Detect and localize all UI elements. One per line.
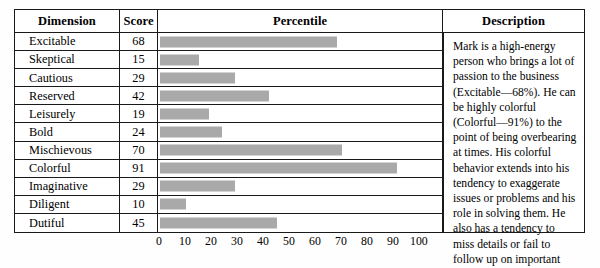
- bar-track: [158, 51, 442, 68]
- cell-score: 24: [120, 123, 158, 140]
- axis-tick-label: 20: [205, 236, 217, 248]
- axis-tick-label: 50: [283, 236, 295, 248]
- header-label-score: Score: [123, 15, 153, 28]
- bar-track: [158, 142, 442, 159]
- cell-percentile: [158, 214, 443, 232]
- score-value: 45: [132, 217, 144, 229]
- axis-tick-label: 80: [361, 236, 373, 248]
- score-value: 10: [132, 198, 144, 210]
- cell-dimension: Diligent: [15, 196, 120, 213]
- bar-track: [158, 160, 442, 177]
- percentile-bar: [160, 163, 397, 174]
- bar-track: [158, 123, 442, 140]
- bar-track: [158, 87, 442, 104]
- axis-tick-label: 100: [410, 236, 428, 248]
- cell-percentile: [158, 142, 443, 159]
- dimension-label: Leisurely: [15, 108, 75, 120]
- percentile-bar: [160, 108, 209, 119]
- axis-tick-label: 70: [335, 236, 347, 248]
- percentile-bar: [160, 127, 222, 138]
- bar-track: [158, 196, 442, 213]
- header-cell-dimension: Dimension: [15, 10, 120, 32]
- dimension-label: Mischievous: [15, 144, 92, 156]
- score-value: 68: [132, 35, 144, 47]
- hogan-hds-profile-table: Dimension Score Percentile Description E…: [0, 0, 600, 268]
- header-label-dimension: Dimension: [38, 15, 96, 28]
- dimension-label: Bold: [15, 126, 53, 138]
- percentile-bar: [160, 199, 186, 210]
- axis-tick-label: 10: [179, 236, 191, 248]
- axis-tick-label: 40: [257, 236, 269, 248]
- header-cell-score: Score: [120, 10, 158, 32]
- score-value: 24: [132, 126, 144, 138]
- percentile-bar: [160, 54, 199, 65]
- cell-score: 45: [120, 214, 158, 232]
- percentile-bar: [160, 145, 342, 156]
- header-cell-description: Description: [443, 10, 584, 32]
- cell-percentile: [158, 33, 443, 50]
- cell-percentile: [158, 196, 443, 213]
- score-value: 29: [132, 180, 144, 192]
- axis-tick-label: 0: [156, 236, 162, 248]
- cell-dimension: Skeptical: [15, 51, 120, 68]
- cell-dimension: Reserved: [15, 87, 120, 104]
- percentile-bar: [160, 217, 277, 228]
- percentile-bar: [160, 72, 235, 83]
- score-value: 19: [132, 108, 144, 120]
- cell-percentile: [158, 69, 443, 86]
- cell-dimension: Imaginative: [15, 178, 120, 195]
- score-value: 15: [132, 53, 144, 65]
- cell-dimension: Dutiful: [15, 214, 120, 232]
- dimension-label: Reserved: [15, 90, 75, 102]
- cell-dimension: Colorful: [15, 160, 120, 177]
- table-header-row: Dimension Score Percentile Description: [15, 10, 584, 33]
- cell-percentile: [158, 178, 443, 195]
- cell-score: 70: [120, 142, 158, 159]
- percentile-bar: [160, 181, 235, 192]
- dimension-label: Diligent: [15, 198, 69, 210]
- cell-dimension: Excitable: [15, 33, 120, 50]
- dimension-label: Excitable: [15, 35, 75, 47]
- cell-score: 29: [120, 69, 158, 86]
- header-label-percentile: Percentile: [273, 15, 327, 28]
- cell-score: 10: [120, 196, 158, 213]
- cell-percentile: [158, 87, 443, 104]
- bar-track: [158, 214, 442, 232]
- percentile-bar: [160, 90, 269, 101]
- bar-track: [158, 69, 442, 86]
- cell-score: 19: [120, 105, 158, 122]
- bar-track: [158, 178, 442, 195]
- score-value: 29: [132, 72, 144, 84]
- cell-percentile: [158, 123, 443, 140]
- header-cell-percentile: Percentile: [158, 10, 443, 32]
- axis-tick-label: 30: [231, 236, 243, 248]
- header-label-description: Description: [482, 15, 545, 28]
- dimension-label: Imaginative: [15, 180, 88, 192]
- cell-dimension: Bold: [15, 123, 120, 140]
- dimension-label: Cautious: [15, 72, 73, 84]
- cell-percentile: [158, 105, 443, 122]
- bar-track: [158, 105, 442, 122]
- cell-score: 29: [120, 178, 158, 195]
- dimension-label: Skeptical: [15, 53, 75, 65]
- dimension-label: Colorful: [15, 162, 71, 174]
- profile-table: Dimension Score Percentile Description E…: [14, 9, 585, 233]
- bar-track: [158, 33, 442, 50]
- cell-score: 15: [120, 51, 158, 68]
- score-value: 70: [132, 144, 144, 156]
- score-value: 42: [132, 90, 144, 102]
- score-value: 91: [132, 162, 144, 174]
- cell-score: 68: [120, 33, 158, 50]
- cell-dimension: Cautious: [15, 69, 120, 86]
- description-text: Mark is a high-energy person who brings …: [453, 39, 577, 268]
- cell-dimension: Mischievous: [15, 142, 120, 159]
- cell-dimension: Leisurely: [15, 105, 120, 122]
- description-cell: Mark is a high-energy person who brings …: [443, 33, 584, 232]
- cell-percentile: [158, 51, 443, 68]
- percentile-bar: [160, 36, 337, 47]
- dimension-label: Dutiful: [15, 217, 65, 229]
- axis-tick-label: 60: [309, 236, 321, 248]
- cell-score: 42: [120, 87, 158, 104]
- cell-score: 91: [120, 160, 158, 177]
- axis-tick-label: 90: [387, 236, 399, 248]
